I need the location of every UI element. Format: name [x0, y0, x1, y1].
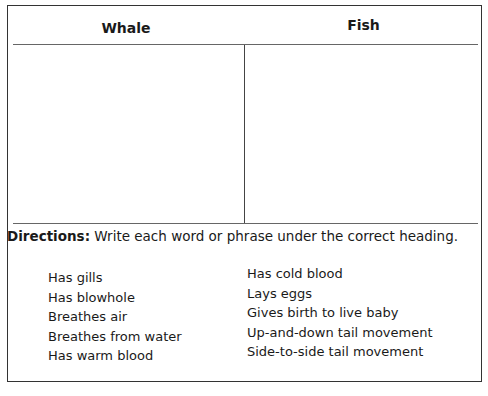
phrase-item: Lays eggs [247, 284, 433, 304]
header-divider [13, 44, 478, 45]
phrase-item: Gives birth to live baby [247, 303, 433, 323]
phrase-list-right: Has cold blood Lays eggs Gives birth to … [247, 264, 433, 362]
phrase-item: Has cold blood [247, 264, 433, 284]
directions-label: Directions: [7, 228, 90, 244]
phrase-list-left: Has gills Has blowhole Breathes air Brea… [48, 268, 182, 366]
directions-text: Write each word or phrase under the corr… [94, 228, 458, 244]
column-divider [244, 45, 245, 223]
phrase-item: Has gills [48, 268, 182, 288]
phrase-item: Has warm blood [48, 346, 182, 366]
phrase-item: Breathes air [48, 307, 182, 327]
phrase-item: Breathes from water [48, 327, 182, 347]
table-bottom-divider [13, 223, 478, 224]
directions: Directions: Write each word or phrase un… [7, 228, 458, 244]
phrase-item: Up-and-down tail movement [247, 323, 433, 343]
phrase-item: Side-to-side tail movement [247, 342, 433, 362]
phrase-item: Has blowhole [48, 288, 182, 308]
column-header-fish: Fish [244, 17, 483, 33]
column-header-whale: Whale [8, 20, 244, 36]
